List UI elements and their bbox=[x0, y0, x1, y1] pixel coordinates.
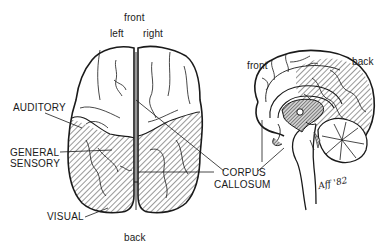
back-label-side-view: back bbox=[352, 56, 374, 67]
corpus-callosum-label-line1: CORPUS bbox=[222, 167, 266, 178]
corpus-callosum-label-line2: CALLOSUM bbox=[214, 179, 271, 190]
visual-label: VISUAL bbox=[47, 211, 84, 222]
general-sensory-label-line1: GENERAL bbox=[10, 147, 59, 158]
right-hemisphere bbox=[136, 46, 210, 230]
auditory-label: AUDITORY bbox=[13, 102, 66, 113]
sagittal-view bbox=[255, 50, 374, 210]
right-label: right bbox=[143, 28, 163, 39]
front-label-top-view: front bbox=[124, 12, 145, 23]
left-hemisphere bbox=[60, 47, 140, 230]
brain-diagram: front left right back AUDITORY GENERAL S… bbox=[0, 0, 385, 249]
back-label-top-view: back bbox=[124, 232, 146, 243]
general-sensory-label-line2: SENSORY bbox=[10, 158, 60, 169]
left-label: left bbox=[110, 28, 124, 39]
front-label-side-view: front bbox=[247, 60, 268, 71]
